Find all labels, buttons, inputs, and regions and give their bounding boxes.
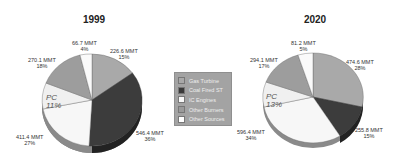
legend-swatch-other-burners — [178, 106, 185, 113]
label-gas-turbine-2020: 474.6 MMT 28% — [346, 59, 374, 71]
legend-item-other-sources: Other Sources — [178, 114, 228, 124]
legend-swatch-coal-fired-st — [178, 87, 185, 94]
label-other-burners-1999: 270.1 MMT 18% — [28, 57, 56, 69]
legend-item-ic-engines: IC Engines — [178, 95, 228, 105]
legend-item-gas-turbine: Gas Turbine — [178, 76, 228, 86]
label-gas-turbine-1999: 226.6 MMT 15% — [110, 48, 138, 60]
chart-legend: Gas Turbine Coal Fired ST IC Engines Oth… — [174, 72, 232, 126]
label-pc-1999: PC 11% — [46, 94, 61, 110]
legend-swatch-other-sources — [178, 116, 185, 123]
label-other-sources-2020: 81.2 MMT 5% — [291, 40, 316, 52]
label-pc-2020: PC 13% — [266, 93, 282, 109]
legend-item-coal-fired-st: Coal Fired ST — [178, 86, 228, 96]
label-other-sources-1999: 66.7 MMT 4% — [72, 40, 97, 52]
chart-title-2020: 2020 — [285, 14, 345, 25]
legend-swatch-ic-engines — [178, 96, 185, 103]
label-ic-1999: 411.4 MMT 27% — [16, 134, 43, 146]
label-coal-1999: 546.4 MMT 36% — [136, 130, 164, 142]
label-coal-2020: 255.8 MMT 15% — [355, 127, 383, 139]
legend-item-other-burners: Other Burners — [178, 105, 228, 115]
legend-swatch-gas-turbine — [178, 77, 185, 84]
label-other-burners-2020: 294.1 MMT 17% — [250, 57, 278, 69]
chart-title-1999: 1999 — [64, 14, 124, 25]
label-ic-2020: 596.4 MMT 34% — [237, 129, 265, 141]
